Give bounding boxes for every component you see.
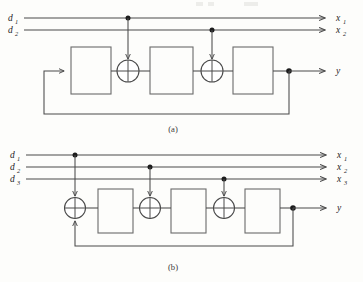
input-label-b-d1: d 1: [10, 150, 20, 162]
output-label-x1-base: x: [335, 13, 341, 23]
output-label-b-x3-base: x: [336, 174, 342, 184]
input-label-d2-sub: 2: [15, 30, 19, 37]
adder-b-3: [214, 198, 235, 219]
adder-b-1: [65, 198, 86, 219]
output-label-b-x1: x 1: [336, 150, 347, 162]
output-label-x2-sub: 2: [343, 30, 347, 37]
delay-block-a-3: [233, 47, 273, 94]
input-label-b-d1-sub: 1: [17, 155, 20, 162]
output-label-b-x2-base: x: [336, 162, 342, 172]
output-label-b-x2: x 2: [336, 162, 348, 174]
delay-block-b-2: [171, 189, 206, 233]
adder-b-2: [140, 198, 161, 219]
output-label-b-x1-base: x: [336, 150, 342, 160]
output-label-x2-base: x: [335, 25, 341, 35]
figure-container: d 1 d 2 x 1 x 2: [0, 0, 363, 282]
output-label-b-x1-sub: 1: [344, 155, 347, 162]
output-label-x2: x 2: [335, 25, 347, 37]
output-label-b-x3: x 3: [336, 174, 347, 186]
output-label-x1: x 1: [335, 13, 346, 25]
panel-a: d 1 d 2 x 1 x 2: [8, 13, 347, 134]
adder-a-1: [117, 60, 139, 82]
input-label-d2: d 2: [8, 25, 19, 37]
panel-b: d 1 d 2 d 3 x 1 x 2: [10, 150, 348, 272]
delay-block-a-1: [71, 47, 111, 94]
input-label-b-d3: d 3: [10, 174, 20, 186]
adder-a-2: [201, 60, 223, 82]
output-label-y-a: y: [335, 66, 341, 76]
feedback-path-a: [44, 71, 289, 114]
input-label-d1-sub: 1: [15, 18, 18, 25]
panel-caption-b: (b): [168, 262, 178, 272]
input-label-d1-base: d: [8, 13, 13, 23]
input-label-b-d2-base: d: [10, 162, 15, 172]
output-label-y-b: y: [336, 203, 342, 213]
feedback-path-b: [75, 208, 293, 246]
panel-caption-a: (a): [168, 124, 178, 134]
input-label-d2-base: d: [8, 25, 13, 35]
output-label-b-x2-sub: 2: [344, 167, 348, 174]
input-label-b-d2: d 2: [10, 162, 21, 174]
delay-block-a-2: [150, 47, 193, 94]
delay-block-b-3: [245, 189, 280, 233]
delay-block-b-1: [98, 189, 133, 233]
block-diagram-figure: d 1 d 2 x 1 x 2: [0, 0, 363, 282]
output-label-b-x3-sub: 3: [343, 179, 347, 186]
output-label-x1-sub: 1: [343, 18, 346, 25]
input-label-b-d2-sub: 2: [17, 167, 21, 174]
input-label-b-d1-base: d: [10, 150, 15, 160]
input-label-b-d3-sub: 3: [16, 179, 20, 186]
input-label-b-d3-base: d: [10, 174, 15, 184]
input-label-d1: d 1: [8, 13, 18, 25]
scan-artifact: [196, 2, 258, 6]
